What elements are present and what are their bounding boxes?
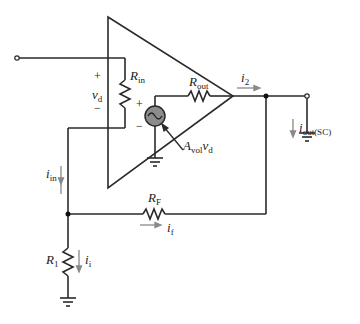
i1-label: ii [85, 252, 92, 269]
r1-label: R1 [45, 252, 58, 269]
rin-resistor [120, 80, 130, 108]
i2-label: i2 [241, 70, 249, 87]
output-node [264, 94, 269, 99]
if-label: if [167, 220, 174, 237]
vd-plus-label: + [94, 69, 101, 83]
circuit-diagram: + vd − Rin Rout + − Avolvd i2 iout(SC) i… [0, 0, 360, 324]
source-plus-label: + [136, 97, 143, 111]
ground-icon [60, 298, 76, 306]
source-minus-label: − [136, 119, 143, 133]
rout-resistor [188, 91, 210, 101]
rout-label: Rout [188, 74, 209, 91]
iout-label: iout(SC) [299, 120, 331, 137]
opamp-triangle [108, 17, 233, 188]
gain-label: Avolvd [182, 138, 213, 155]
r1-resistor [63, 248, 73, 276]
rin-label: Rin [129, 68, 145, 85]
feedback-node [66, 212, 71, 217]
output-terminal [305, 94, 309, 98]
ground-icon [147, 158, 163, 166]
input-terminal [15, 56, 19, 60]
iin-label: iin [46, 166, 57, 183]
rf-resistor [143, 209, 165, 219]
vd-minus-label: − [94, 101, 101, 115]
circuit-svg: + vd − Rin Rout + − Avolvd i2 iout(SC) i… [0, 0, 360, 324]
rf-label: RF [147, 190, 161, 207]
